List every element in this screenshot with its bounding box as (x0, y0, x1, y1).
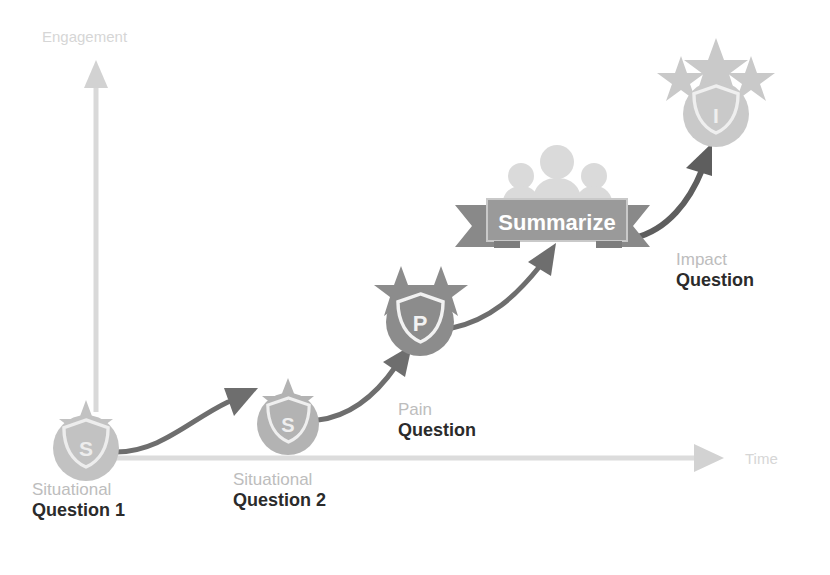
node-badge-letter: S (79, 437, 93, 460)
node-category-label: Situational (233, 470, 326, 490)
summarize-label: Summarize (498, 210, 615, 235)
diagram-canvas: Summarize S S P (0, 0, 830, 575)
node-question-label: Question 2 (233, 490, 326, 511)
summarize-banner[interactable]: Summarize (455, 145, 650, 248)
node-badge-letter: I (713, 104, 719, 127)
node-question-label: Question (398, 420, 476, 441)
node-question-label: Question 1 (32, 500, 125, 521)
node-impact[interactable]: I (657, 38, 775, 147)
connector-pain-to-summarize (452, 243, 556, 328)
node-badge-letter: P (413, 311, 428, 336)
axis-y-label: Engagement (42, 28, 127, 45)
connector-summarize-to-impact (634, 143, 712, 238)
axis-x-label: Time (745, 450, 778, 467)
node-label-pain: Pain Question (398, 400, 476, 441)
axis-x (96, 444, 724, 472)
node-pain[interactable]: P (374, 266, 468, 356)
connector-situational1-to-situational2 (116, 388, 258, 452)
node-situational-2[interactable]: S (257, 378, 319, 455)
node-label-impact: Impact Question (676, 250, 754, 291)
node-situational-1[interactable]: S (53, 400, 119, 481)
node-category-label: Impact (676, 250, 754, 270)
node-question-label: Question (676, 270, 754, 291)
node-category-label: Situational (32, 480, 125, 500)
node-category-label: Pain (398, 400, 476, 420)
node-label-situational-1: Situational Question 1 (32, 480, 125, 521)
node-badge-letter: S (281, 414, 294, 436)
axis-y (84, 60, 108, 412)
node-label-situational-2: Situational Question 2 (233, 470, 326, 511)
